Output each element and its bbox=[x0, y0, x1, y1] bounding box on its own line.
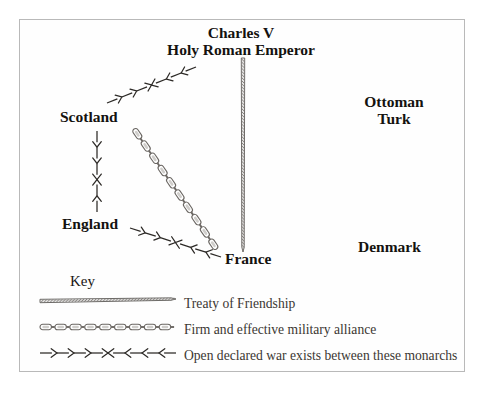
node-england: England bbox=[62, 215, 118, 232]
legend-label-war: Open declared war exists between these m… bbox=[184, 348, 457, 364]
node-france-label: France bbox=[225, 250, 271, 267]
legend-label-alliance: Firm and effective military alliance bbox=[184, 322, 376, 338]
node-charles-v-line2: Holy Roman Emperor bbox=[167, 41, 315, 58]
node-denmark-label: Denmark bbox=[358, 238, 421, 255]
legend-label-treaty: Treaty of Friendship bbox=[184, 296, 295, 312]
diagram-frame bbox=[19, 19, 465, 372]
node-france: France bbox=[225, 250, 271, 267]
key-title: Key bbox=[70, 273, 95, 290]
node-scotland: Scotland bbox=[60, 108, 118, 125]
node-ottoman-turk: Ottoman Turk bbox=[364, 93, 423, 128]
node-england-label: England bbox=[62, 215, 118, 232]
node-denmark: Denmark bbox=[358, 238, 421, 255]
node-scotland-label: Scotland bbox=[60, 108, 118, 125]
node-charles-v: Charles V Holy Roman Emperor bbox=[167, 24, 315, 59]
node-charles-v-line1: Charles V bbox=[208, 24, 274, 41]
node-ottoman-turk-line1: Ottoman bbox=[364, 93, 423, 110]
node-ottoman-turk-line2: Turk bbox=[364, 110, 423, 127]
